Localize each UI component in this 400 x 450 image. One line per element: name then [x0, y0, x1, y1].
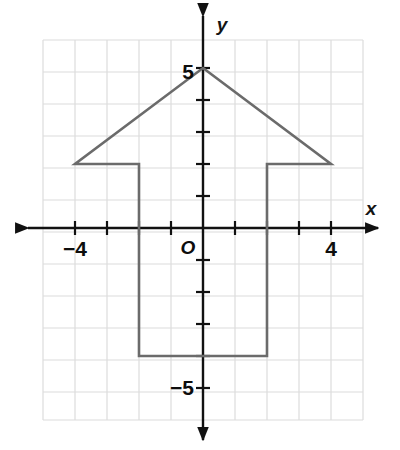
coordinate-plane-svg: 5 −5 −4 4 O x y	[0, 0, 400, 450]
x-axis-label-4: 4	[325, 237, 337, 260]
coordinate-plane-figure: 5 −5 −4 4 O x y	[0, 0, 400, 450]
y-axis-name-label: y	[216, 14, 229, 35]
x-axis-label-neg4: −4	[63, 237, 87, 260]
x-axis-name-label: x	[365, 198, 378, 219]
y-axis-label-neg5: −5	[170, 376, 194, 399]
origin-label: O	[181, 237, 196, 258]
y-axis-label-5: 5	[182, 60, 194, 83]
